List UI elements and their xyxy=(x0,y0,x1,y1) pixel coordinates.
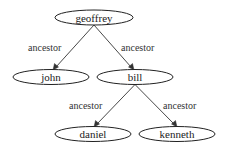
node-label: bill xyxy=(128,71,143,83)
node-label: kenneth xyxy=(160,128,195,140)
edge-label: ancestor xyxy=(69,100,103,111)
node-daniel: daniel xyxy=(55,127,131,142)
node-label: john xyxy=(40,71,61,83)
edge-label: ancestor xyxy=(121,42,155,53)
node-bill: bill xyxy=(97,70,173,85)
node-kenneth: kenneth xyxy=(139,127,215,142)
edge-bill-daniel: ancestor xyxy=(69,85,135,128)
edge-label: ancestor xyxy=(163,100,197,111)
node-john: john xyxy=(13,70,89,85)
edge-label: ancestor xyxy=(28,42,62,53)
edge-geoffrey-bill: ancestor xyxy=(94,25,155,70)
node-label: geoffrey xyxy=(75,12,113,24)
edge-geoffrey-john: ancestor xyxy=(28,25,94,70)
node-geoffrey: geoffrey xyxy=(55,10,133,25)
edge-bill-kenneth: ancestor xyxy=(135,85,197,128)
ancestor-tree-diagram: ancestor ancestor ancestor ancestor geof… xyxy=(0,0,228,155)
node-label: daniel xyxy=(80,128,107,140)
